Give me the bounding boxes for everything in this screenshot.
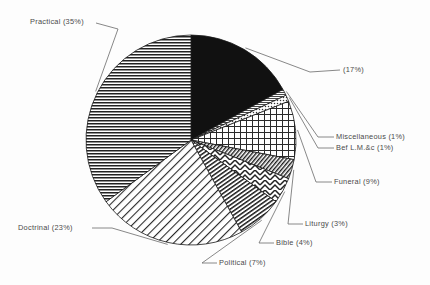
pie-slices	[86, 35, 296, 245]
slice-label-doctrinal: Doctrinal (23%)	[18, 224, 73, 231]
slice-label-bible: Bible (4%)	[276, 239, 313, 246]
slice-label-miscellaneous: Miscellaneous (1%)	[336, 133, 405, 140]
slice-label-liturgy: Liturgy (3%)	[305, 220, 348, 227]
leader-line-liturgy	[288, 170, 303, 224]
slice-label-unlabeled: (17%)	[343, 66, 364, 73]
slice-label-practical: Practical (35%)	[30, 18, 84, 25]
slice-label-funeral: Funeral (9%)	[334, 178, 380, 185]
slice-label-bef-lm-c: Bef L.M.&c (1%)	[336, 144, 394, 151]
slice-label-political: Political (7%)	[219, 259, 266, 266]
leader-line-funeral	[298, 130, 332, 182]
pie-chart-figure: Practical (35%) (17%) Miscellaneous (1%)…	[0, 0, 430, 285]
